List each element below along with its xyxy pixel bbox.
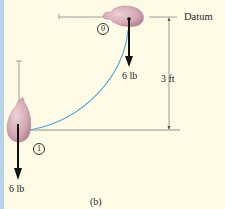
pendulum-diagram [0,0,225,209]
position-marker-0: 0 [97,23,109,35]
weight-label-1: 6 lb [9,184,24,194]
weight-label-0: 6 lb [122,71,137,81]
bag-position-0 [103,6,144,27]
position-marker-1: 1 [33,143,45,155]
figure-caption: (b) [90,197,102,207]
swing-arc [30,30,128,130]
height-label: 3 ft [161,74,175,84]
datum-label: Datum [184,12,213,23]
